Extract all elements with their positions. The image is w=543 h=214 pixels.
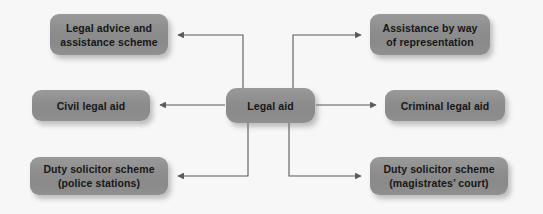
node-assistance-by-way-of-representation[interactable]: Assistance by way of representation	[370, 14, 490, 55]
connector-to-legal-advice-and-assistance-scheme	[178, 35, 243, 89]
node-label-line: Duty solicitor scheme	[383, 162, 494, 176]
node-duty-solicitor-scheme-police-stations[interactable]: Duty solicitor scheme (police stations)	[30, 157, 168, 195]
node-civil-legal-aid[interactable]: Civil legal aid	[32, 90, 150, 121]
node-legal-advice-and-assistance-scheme[interactable]: Legal advice and assistance scheme	[50, 14, 168, 55]
node-criminal-legal-aid[interactable]: Criminal legal aid	[385, 90, 505, 121]
node-label-line: Criminal legal aid	[401, 99, 490, 113]
node-label-line: assistance scheme	[60, 35, 157, 49]
node-label-line: Assistance by way	[382, 21, 477, 35]
connector-to-duty-solicitor-scheme-magistrates-court	[289, 123, 361, 176]
node-label-line: (police stations)	[43, 176, 154, 190]
node-label-line: (magistrates’ court)	[383, 176, 494, 190]
node-label-line: Duty solicitor scheme	[43, 162, 154, 176]
legal-aid-diagram: Legal advice and assistance scheme Civil…	[0, 0, 543, 214]
connector-to-assistance-by-way-of-representation	[293, 35, 361, 89]
node-duty-solicitor-scheme-magistrates-court[interactable]: Duty solicitor scheme (magistrates’ cour…	[370, 157, 508, 195]
node-legal-aid-center[interactable]: Legal aid	[226, 88, 315, 123]
connector-to-duty-solicitor-scheme-police-stations	[178, 123, 248, 176]
node-label-line: Legal aid	[247, 99, 293, 113]
node-label-line: Legal advice and	[60, 21, 157, 35]
node-label-line: Civil legal aid	[57, 99, 126, 113]
node-label-line: of representation	[382, 35, 477, 49]
